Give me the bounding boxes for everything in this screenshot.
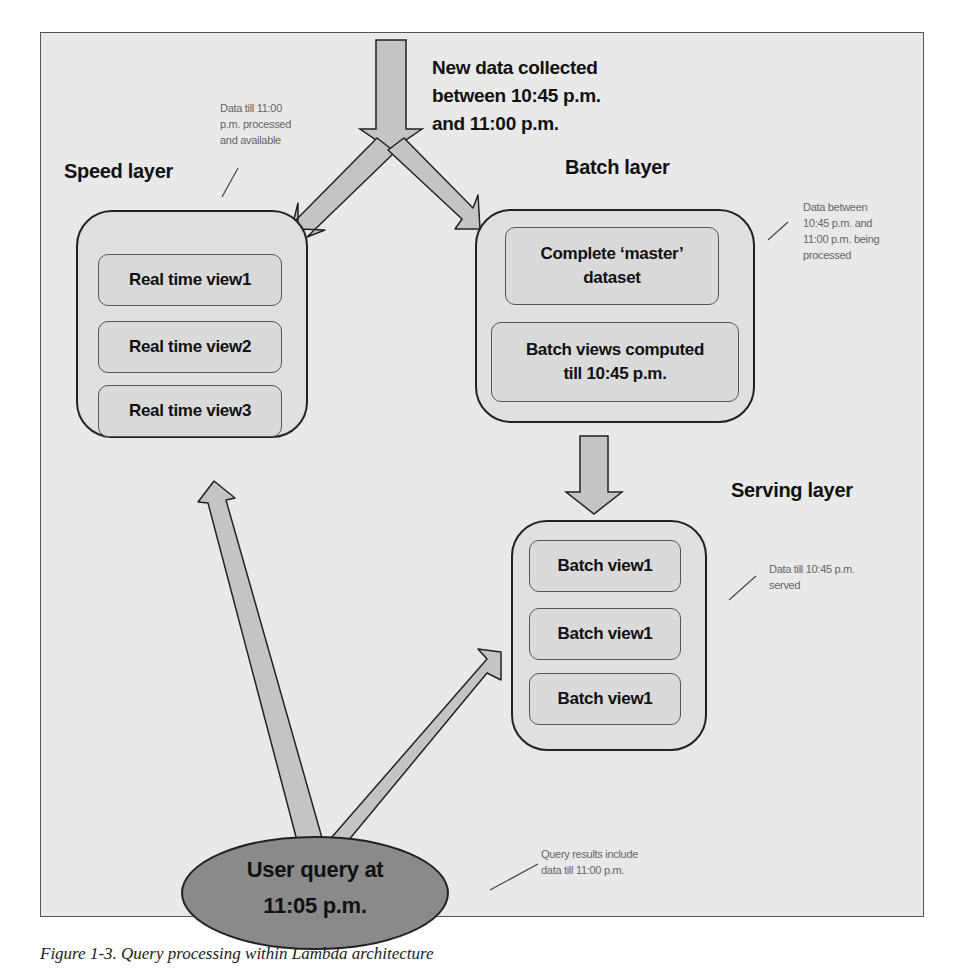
view-label: Real time view2 [129,335,251,359]
view-label: Real time view3 [129,399,251,423]
batch-views-line-2: till 10:45 p.m. [526,362,704,386]
user-query-line-1: User query at [182,852,448,888]
view-label: Batch view1 [558,687,653,711]
note-line: processed [803,247,879,263]
arrow-to-serving-layer [566,436,622,514]
query-to-serving-arrow [318,649,501,853]
note-line: served [769,577,855,593]
user-query-line-2: 11:05 p.m. [182,888,448,924]
incoming-data-arrow [360,40,422,150]
view-label: Real time view1 [129,268,251,292]
batch-views-computed-box: Batch views computedtill 10:45 p.m. [491,322,739,402]
real-time-view-2: Real time view2 [98,321,282,373]
serving-note-leader [729,576,756,600]
batch-layer-title: Batch layer [565,156,670,179]
user-query-note: Query results include data till 11:00 p.… [541,846,638,878]
batch-view-2: Batch view1 [529,608,681,660]
batch-views-line-1: Batch views computed [526,338,704,362]
query-to-speed-arrow [198,481,326,852]
master-line-2: dataset [541,266,684,290]
arrow-to-speed-layer [293,138,395,237]
master-dataset-box: Complete ‘master’dataset [505,227,719,305]
note-line: 11:00 p.m. being [803,231,879,247]
batch-layer-note: Data between 10:45 p.m. and 11:00 p.m. b… [803,199,879,263]
incoming-data-label: New data collected between 10:45 p.m. an… [432,54,601,138]
batch-view-1: Batch view1 [529,540,681,592]
arrow-to-batch-layer [388,138,480,229]
speed-layer-title: Speed layer [64,160,173,183]
figure-caption: Figure 1-3. Query processing within Lamb… [40,944,434,964]
real-time-view-1: Real time view1 [98,254,282,306]
note-line: Query results include [541,846,638,862]
view-label: Batch view1 [558,622,653,646]
note-line: Data till 10:45 p.m. [769,561,855,577]
view-label: Batch view1 [558,554,653,578]
speed-note-leader [222,168,238,197]
incoming-line-1: New data collected [432,54,601,82]
note-line: and available [220,132,291,148]
serving-layer-title: Serving layer [731,479,853,502]
note-line: data till 11:00 p.m. [541,862,638,878]
user-query-label: User query at 11:05 p.m. [182,852,448,924]
batch-view-3: Batch view1 [529,673,681,725]
incoming-line-2: between 10:45 p.m. [432,82,601,110]
batch-note-leader [768,222,788,240]
incoming-line-3: and 11:00 p.m. [432,110,601,138]
query-note-leader [490,864,538,890]
serving-layer-note: Data till 10:45 p.m. served [769,561,855,593]
note-line: p.m. processed [220,116,291,132]
speed-layer-note: Data till 11:00 p.m. processed and avail… [220,100,291,148]
real-time-view-3: Real time view3 [98,385,282,437]
master-line-1: Complete ‘master’ [541,242,684,266]
note-line: 10:45 p.m. and [803,215,879,231]
note-line: Data till 11:00 [220,100,291,116]
note-line: Data between [803,199,879,215]
